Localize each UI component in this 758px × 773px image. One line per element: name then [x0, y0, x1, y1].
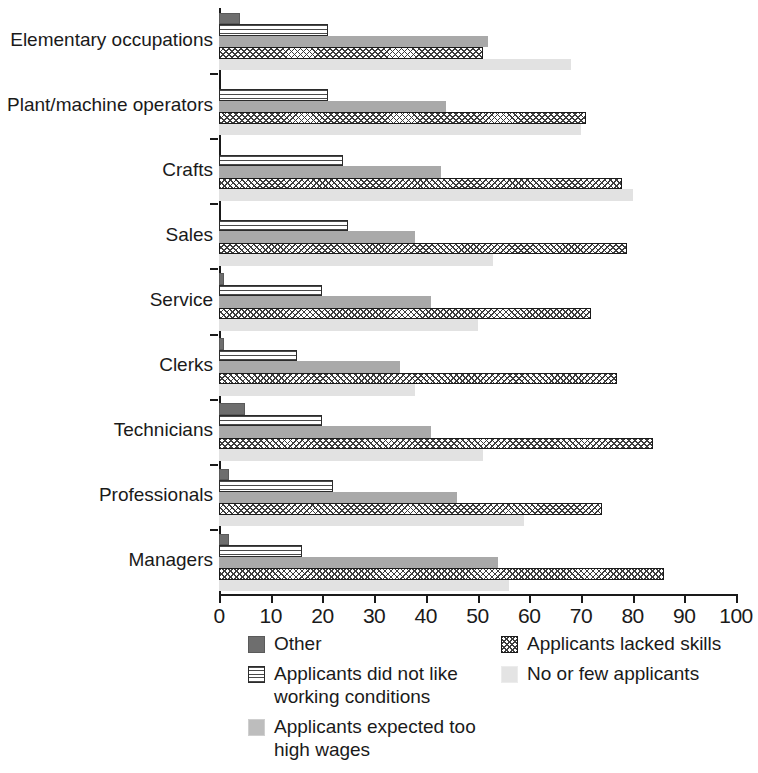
legend-item: Other	[248, 633, 498, 655]
x-axis-tick	[219, 594, 221, 603]
x-axis-tick	[478, 594, 480, 603]
y-axis-tick	[210, 268, 218, 270]
legend-swatch-icon	[501, 636, 518, 653]
bar-other	[219, 13, 240, 25]
bar-lacked-skills	[219, 178, 622, 190]
bar-working-conditions	[219, 415, 322, 427]
y-axis-tick	[210, 73, 218, 75]
y-axis-tick	[210, 138, 218, 140]
legend-item: No or few applicants	[501, 663, 748, 685]
bar-high-wages	[219, 426, 431, 438]
bar-working-conditions	[219, 350, 297, 362]
legend-swatch-icon	[248, 719, 265, 736]
x-axis-tick	[684, 594, 686, 603]
category-label: Technicians	[0, 420, 213, 439]
legend-item: Applicants lacked skills	[501, 633, 748, 655]
bar-other	[219, 273, 224, 285]
plot-area	[219, 8, 736, 594]
legend-label: Applicants did not like working conditio…	[274, 663, 498, 708]
legend-swatch-icon	[501, 666, 518, 683]
bar-lacked-skills	[219, 568, 664, 580]
bar-working-conditions	[219, 24, 328, 36]
bar-high-wages	[219, 296, 431, 308]
x-axis-tick	[322, 594, 324, 603]
bar-no-few-applicants	[219, 580, 509, 592]
x-axis-tick	[633, 594, 635, 603]
bar-lacked-skills	[219, 243, 627, 255]
bar-working-conditions	[219, 89, 328, 101]
bar-high-wages	[219, 557, 498, 569]
bar-chart: Elementary occupationsPlant/machine oper…	[0, 0, 758, 773]
bar-lacked-skills	[219, 47, 483, 59]
bar-lacked-skills	[219, 112, 586, 124]
legend-label: Applicants expected too high wages	[274, 716, 498, 761]
category-label: Plant/machine operators	[0, 95, 213, 114]
y-axis-tick	[210, 399, 218, 401]
bar-other	[219, 534, 229, 546]
x-axis-tick	[426, 594, 428, 603]
category-label: Clerks	[0, 355, 213, 374]
y-axis-tick	[210, 334, 218, 336]
legend-item: Applicants did not like working conditio…	[248, 663, 498, 708]
category-label: Sales	[0, 225, 213, 244]
legend-label: Other	[274, 633, 322, 655]
bar-high-wages	[219, 231, 415, 243]
bar-other	[219, 403, 245, 415]
bar-no-few-applicants	[219, 189, 633, 201]
x-axis-tick	[271, 594, 273, 603]
y-axis-tick	[210, 464, 218, 466]
bar-working-conditions	[219, 155, 343, 167]
bar-lacked-skills	[219, 308, 591, 320]
bar-lacked-skills	[219, 438, 653, 450]
bar-high-wages	[219, 36, 488, 48]
bar-other	[219, 469, 229, 481]
bar-no-few-applicants	[219, 59, 571, 71]
x-axis-tick	[374, 594, 376, 603]
x-axis-tick-label: 100	[706, 604, 758, 628]
bar-working-conditions	[219, 285, 322, 297]
y-axis-tick	[210, 529, 218, 531]
bar-no-few-applicants	[219, 449, 483, 461]
legend-column-left: OtherApplicants did not like working con…	[248, 633, 498, 769]
bar-no-few-applicants	[219, 319, 478, 331]
bar-lacked-skills	[219, 503, 602, 515]
bar-lacked-skills	[219, 373, 617, 385]
legend-swatch-icon	[248, 666, 265, 683]
y-axis-tick	[210, 203, 218, 205]
bar-working-conditions	[219, 220, 348, 232]
legend-item: Applicants expected too high wages	[248, 716, 498, 761]
bar-no-few-applicants	[219, 384, 415, 396]
x-axis-tick	[529, 594, 531, 603]
legend-column-right: Applicants lacked skillsNo or few applic…	[501, 633, 748, 694]
bar-high-wages	[219, 166, 441, 178]
category-label: Professionals	[0, 485, 213, 504]
category-label: Crafts	[0, 160, 213, 179]
bar-no-few-applicants	[219, 515, 524, 527]
legend-label: No or few applicants	[527, 663, 699, 685]
bar-working-conditions	[219, 545, 302, 557]
legend-swatch-icon	[248, 636, 265, 653]
category-label: Elementary occupations	[0, 30, 213, 49]
legend: OtherApplicants did not like working con…	[248, 633, 748, 768]
bar-high-wages	[219, 492, 457, 504]
category-label: Managers	[0, 550, 213, 569]
bar-other	[219, 338, 224, 350]
bar-high-wages	[219, 361, 400, 373]
legend-label: Applicants lacked skills	[527, 633, 721, 655]
bar-working-conditions	[219, 480, 333, 492]
bar-no-few-applicants	[219, 254, 493, 266]
category-label: Service	[0, 290, 213, 309]
bar-no-few-applicants	[219, 124, 581, 136]
bar-high-wages	[219, 101, 446, 113]
x-axis-tick	[736, 594, 738, 603]
x-axis-tick	[581, 594, 583, 603]
